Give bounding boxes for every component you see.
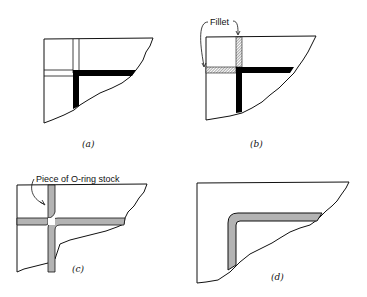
plate-outline [44, 38, 153, 123]
caption-b: (b) [250, 139, 263, 149]
panel-b: Fillet (b) [201, 17, 316, 149]
fillet-label: Fillet [210, 17, 230, 27]
o-ring-groove-diagram: (a) Fillet (b) Piece of O-ring stock (c)… [0, 0, 367, 297]
panel-d: (d) [197, 182, 349, 283]
caption-d: (d) [271, 272, 284, 282]
plate-outline [197, 182, 349, 283]
panel-a: (a) [44, 38, 153, 149]
panel-c: Piece of O-ring stock (c) [17, 174, 147, 274]
fillet-arrow-right [233, 21, 238, 34]
plate-outline [206, 36, 316, 120]
fillet-vertical [236, 37, 242, 67]
oring-stock-junction [48, 218, 55, 225]
oring-stock-label: Piece of O-ring stock [36, 174, 120, 184]
caption-c: (c) [72, 264, 85, 274]
caption-a: (a) [82, 139, 95, 149]
plate-outline [17, 184, 147, 272]
fillet-horizontal [206, 67, 236, 73]
